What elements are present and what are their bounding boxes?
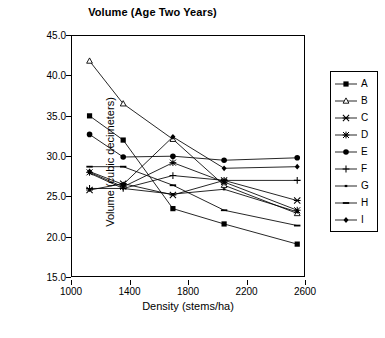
legend-label: B (358, 95, 368, 107)
legend-marker-open-triangle-icon (334, 95, 358, 107)
data-point-dash (221, 209, 227, 211)
x-tick-label: 1000 (49, 286, 93, 297)
x-tick-mark (305, 280, 306, 285)
data-point-filled-star (343, 131, 350, 138)
data-point-dash (170, 184, 176, 186)
legend-label: I (358, 214, 364, 226)
series-I (87, 134, 300, 187)
data-point-star-cross (343, 114, 350, 120)
legend-marker-star-cross-icon (334, 112, 358, 124)
data-point-filled-circle (221, 157, 227, 163)
y-tick-label: 45.0 (30, 30, 66, 41)
data-point-filled-square (170, 206, 175, 211)
legend-item-D[interactable]: D (331, 126, 377, 143)
data-point-small-diamond (344, 217, 349, 223)
legend-marker-small-dash-icon (334, 180, 358, 192)
y-tick-label: 40.0 (30, 70, 66, 81)
data-point-plus (294, 177, 301, 184)
data-point-filled-star (170, 159, 177, 166)
data-point-small-dash (172, 193, 175, 195)
x-tick-label: 1800 (166, 286, 210, 297)
y-tick-label: 20.0 (30, 231, 66, 242)
x-tick-label: 2600 (283, 286, 327, 297)
data-point-open-triangle (343, 97, 349, 102)
data-point-filled-square (343, 81, 348, 86)
x-tick-mark (71, 280, 72, 285)
y-tick-label: 15.0 (30, 272, 66, 283)
legend-item-B[interactable]: B (331, 92, 377, 109)
legend-marker-filled-square-icon (334, 78, 358, 90)
data-point-plus (170, 172, 177, 179)
x-axis-ticks: 10001400180022002600 (71, 280, 305, 296)
data-point-filled-circle (120, 154, 126, 160)
data-point-dash (86, 166, 92, 168)
data-point-plus (86, 185, 93, 192)
legend-item-I[interactable]: I (331, 211, 377, 228)
data-point-filled-circle (170, 153, 176, 159)
y-tick-mark (66, 277, 71, 278)
x-tick-mark (247, 280, 248, 285)
series-canvas (72, 36, 306, 278)
legend-item-E[interactable]: E (331, 143, 377, 160)
series-E (87, 132, 300, 163)
data-point-filled-circle (87, 132, 93, 138)
data-point-filled-circle (343, 149, 349, 155)
legend-label: D (358, 129, 368, 141)
data-point-dash (120, 166, 126, 168)
series-H (86, 166, 300, 227)
legend-marker-plus-icon (334, 163, 358, 175)
chart-figure: Volume (Age Two Years) Volume (cubic dec… (0, 0, 385, 338)
legend-label: F (358, 163, 367, 175)
data-point-small-diamond (222, 165, 227, 171)
data-point-dash (343, 202, 349, 204)
x-tick-mark (188, 280, 189, 285)
legend-item-H[interactable]: H (331, 194, 377, 211)
legend-item-G[interactable]: G (331, 177, 377, 194)
legend-label: G (358, 180, 369, 192)
data-point-small-diamond (295, 164, 300, 170)
data-point-small-dash (345, 184, 348, 186)
y-tick-label: 35.0 (30, 110, 66, 121)
series-line-G (90, 173, 298, 212)
legend-item-C[interactable]: C (331, 109, 377, 126)
legend-marker-filled-circle-icon (334, 146, 358, 158)
x-axis-label: Density (stems/ha) (71, 300, 305, 312)
data-point-filled-square (222, 221, 227, 226)
data-point-plus (343, 165, 350, 172)
legend-item-F[interactable]: F (331, 160, 377, 177)
chart-title: Volume (Age Two Years) (0, 6, 305, 18)
legend: ABCDEFGHI (330, 71, 378, 232)
data-point-filled-square (295, 242, 300, 247)
data-point-star-cross (294, 197, 301, 203)
legend-label: C (358, 112, 368, 124)
data-point-small-dash (223, 188, 226, 190)
series-line-H (90, 167, 298, 226)
data-point-filled-square (121, 137, 126, 142)
legend-label: H (358, 197, 368, 209)
y-tick-label: 30.0 (30, 151, 66, 162)
data-point-small-dash (296, 211, 299, 213)
x-tick-mark (130, 280, 131, 285)
data-point-small-dash (122, 187, 125, 189)
legend-marker-small-diamond-icon (334, 214, 358, 226)
data-point-filled-circle (294, 155, 300, 161)
x-tick-label: 1400 (108, 286, 152, 297)
data-point-dash (294, 225, 300, 227)
legend-label: A (358, 78, 368, 90)
legend-marker-filled-star-icon (334, 129, 358, 141)
legend-marker-dash-icon (334, 197, 358, 209)
plot-area (71, 35, 305, 277)
y-tick-label: 25.0 (30, 191, 66, 202)
series-C (86, 177, 300, 203)
y-axis-ticks: 15.020.025.030.035.040.045.0 (26, 35, 66, 277)
legend-label: E (358, 146, 368, 158)
data-point-filled-square (87, 113, 92, 118)
x-tick-label: 2200 (225, 286, 269, 297)
legend-item-A[interactable]: A (331, 75, 377, 92)
data-point-open-triangle (87, 58, 93, 63)
series-line-B (90, 61, 298, 213)
